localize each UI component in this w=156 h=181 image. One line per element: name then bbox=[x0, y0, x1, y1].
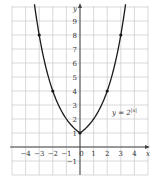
chart: −4−3−2−101234−1123456789xy y = 2|x| bbox=[0, 0, 156, 181]
y-tick-label: 4 bbox=[73, 88, 78, 96]
x-axis-arrow bbox=[145, 145, 150, 149]
data-point bbox=[78, 131, 81, 134]
function-label-base: y = 2 bbox=[111, 109, 131, 117]
y-tick-label: 6 bbox=[73, 60, 78, 68]
x-tick-label: 2 bbox=[105, 150, 109, 158]
y-tick-label: −1 bbox=[67, 158, 77, 166]
y-axis-arrow bbox=[78, 3, 82, 8]
y-tick-label: 2 bbox=[73, 116, 77, 124]
x-tick-label: 1 bbox=[91, 150, 95, 158]
y-tick-label: 8 bbox=[73, 32, 77, 40]
data-point bbox=[119, 33, 122, 36]
y-axis-label: y bbox=[72, 5, 78, 13]
function-label: y = 2|x| bbox=[111, 107, 137, 117]
data-point bbox=[51, 89, 54, 92]
y-tick-label: 3 bbox=[73, 102, 77, 110]
data-point bbox=[106, 89, 109, 92]
function-label-exponent: |x| bbox=[131, 107, 138, 114]
x-tick-label: 4 bbox=[132, 150, 137, 158]
x-tick-label: 3 bbox=[119, 150, 123, 158]
x-tick-label: −2 bbox=[48, 150, 58, 158]
y-tick-label: 7 bbox=[73, 46, 77, 54]
y-tick-label: 5 bbox=[73, 74, 77, 82]
x-tick-label: 0 bbox=[79, 150, 83, 158]
data-point bbox=[38, 33, 41, 36]
x-axis-label: x bbox=[146, 150, 150, 158]
x-tick-label: −4 bbox=[20, 150, 31, 158]
tick-labels: −4−3−2−101234−1123456789xy bbox=[20, 5, 150, 166]
y-tick-label: 9 bbox=[73, 18, 77, 26]
x-tick-label: −3 bbox=[34, 150, 44, 158]
